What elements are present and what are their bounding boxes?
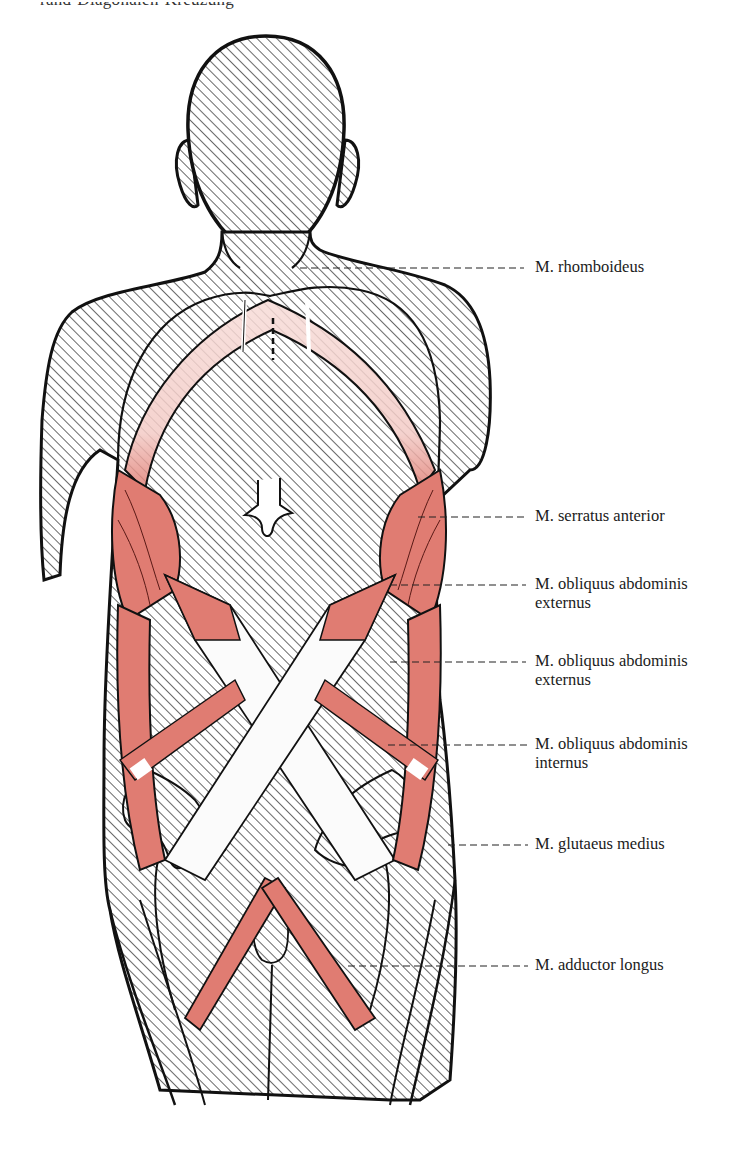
label-text: M. glutaeus medius bbox=[535, 834, 665, 853]
label-serratus-anterior: M. serratus anterior bbox=[535, 506, 665, 525]
label-text-line2: externus bbox=[535, 670, 688, 689]
label-text: M. obliquus abdominis bbox=[535, 574, 688, 593]
label-text-line2: externus bbox=[535, 593, 688, 612]
label-text: M. adductor longus bbox=[535, 955, 664, 974]
label-glutaeus-medius: M. glutaeus medius bbox=[535, 834, 665, 853]
label-text: M. obliquus abdominis bbox=[535, 734, 688, 753]
label-obliquus-internus: M. obliquus abdominis internus bbox=[535, 734, 688, 772]
label-text-line2: internus bbox=[535, 753, 688, 772]
label-text: M. rhomboideus bbox=[535, 257, 644, 276]
label-obliquus-externus-1: M. obliquus abdominis externus bbox=[535, 574, 688, 612]
head bbox=[176, 36, 358, 257]
label-adductor-longus: M. adductor longus bbox=[535, 955, 664, 974]
label-obliquus-externus-2: M. obliquus abdominis externus bbox=[535, 651, 688, 689]
label-text: M. serratus anterior bbox=[535, 506, 665, 525]
label-text: M. obliquus abdominis bbox=[535, 651, 688, 670]
label-rhomboideus: M. rhomboideus bbox=[535, 257, 644, 276]
